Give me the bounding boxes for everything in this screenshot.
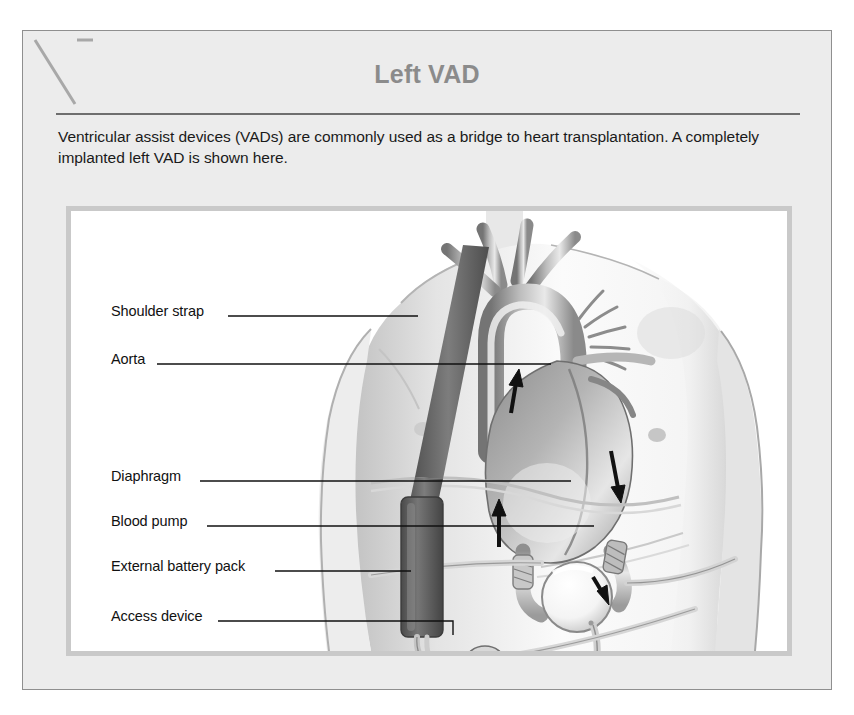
external-battery-pack <box>401 497 443 637</box>
vad-anatomical-illustration <box>71 211 787 651</box>
callout-label-shoulder-strap: Shoulder strap <box>111 303 204 319</box>
callout-label-diaphragm: Diaphragm <box>111 468 181 484</box>
illustration-panel <box>66 206 792 656</box>
figure-caption: Ventricular assist devices (VADs) are co… <box>58 126 800 168</box>
anatomy-detail-right <box>648 428 666 442</box>
title-zone: Left VAD <box>23 59 831 105</box>
figure-title: Left VAD <box>23 59 831 89</box>
callout-label-blood-pump: Blood pump <box>111 513 187 529</box>
figure-card: Left VAD Ventricular assist devices (VAD… <box>22 30 832 690</box>
callout-label-access-device: Access device <box>111 608 202 624</box>
callout-label-external-battery-pack: External battery pack <box>111 558 245 574</box>
callout-label-aorta: Aorta <box>111 351 145 367</box>
title-divider <box>56 113 800 115</box>
